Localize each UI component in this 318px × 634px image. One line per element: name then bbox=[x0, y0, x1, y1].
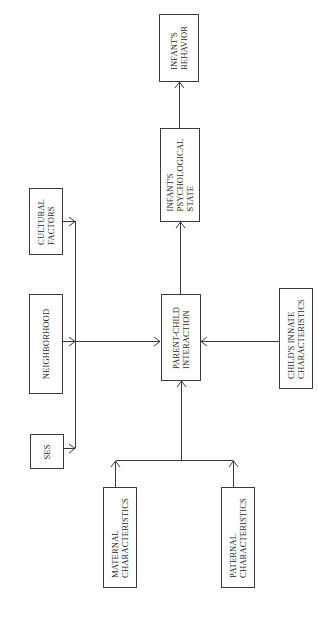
node-childs-innate-characteristics: CHILD'S INNATE CHARACTERISTICS bbox=[279, 288, 313, 389]
label-line: CHARACTERISTICS bbox=[238, 498, 248, 578]
label-line: CHILD'S INNATE bbox=[286, 299, 296, 379]
node-label: SES bbox=[42, 444, 52, 459]
label-line: BEHAVIOR bbox=[179, 26, 189, 70]
node-maternal-characteristics: MATERNAL CHARACTERISTICS bbox=[103, 487, 137, 588]
parent-child-interaction-diagram: INFANT'S BEHAVIOR INFANT'S PSYCHOLOGICAL… bbox=[0, 0, 318, 634]
node-label: PATERNAL CHARACTERISTICS bbox=[228, 498, 248, 578]
label-line: INTERACTION bbox=[181, 306, 191, 368]
label-line: CULTURAL bbox=[36, 199, 46, 245]
node-cultural-factors: CULTURAL FACTORS bbox=[29, 188, 63, 255]
label-line: MATERNAL bbox=[110, 498, 120, 578]
node-infant-psychological-state: INFANT'S PSYCHOLOGICAL STATE bbox=[160, 128, 200, 222]
node-label: INFANT'S BEHAVIOR bbox=[169, 26, 189, 70]
label-line: SES bbox=[42, 444, 52, 459]
node-label: MATERNAL CHARACTERISTICS bbox=[110, 498, 130, 578]
node-label: NEIGHBORHOOD bbox=[41, 309, 51, 379]
label-line: PARENT-CHILD bbox=[171, 306, 181, 368]
node-neighborhood: NEIGHBORHOOD bbox=[29, 294, 63, 394]
node-label: CULTURAL FACTORS bbox=[36, 199, 56, 245]
label-line: PSYCHOLOGICAL bbox=[175, 139, 185, 212]
node-parent-child-interaction: PARENT-CHILD INTERACTION bbox=[161, 294, 201, 381]
label-line: NEIGHBORHOOD bbox=[41, 309, 51, 379]
node-label: PARENT-CHILD INTERACTION bbox=[171, 306, 191, 368]
label-line: STATE bbox=[185, 139, 195, 212]
label-line: INFANT'S bbox=[169, 26, 179, 70]
label-line: PATERNAL bbox=[228, 498, 238, 578]
node-infant-behavior: INFANT'S BEHAVIOR bbox=[159, 14, 199, 82]
label-line: CHARACTERISTICS bbox=[120, 498, 130, 578]
label-line: CHARACTERISTICS bbox=[296, 299, 306, 379]
node-paternal-characteristics: PATERNAL CHARACTERISTICS bbox=[221, 487, 255, 588]
node-ses: SES bbox=[30, 434, 64, 469]
label-line: FACTORS bbox=[46, 199, 56, 245]
node-label: INFANT'S PSYCHOLOGICAL STATE bbox=[165, 139, 195, 212]
label-line: INFANT'S bbox=[165, 139, 175, 212]
node-label: CHILD'S INNATE CHARACTERISTICS bbox=[286, 299, 306, 379]
